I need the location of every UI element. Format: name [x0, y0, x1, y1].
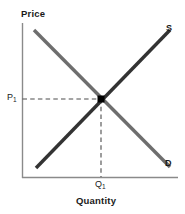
equilibrium-point-marker — [98, 96, 105, 103]
quantity-tick-label: Q1 — [95, 180, 106, 189]
x-axis-title: Quantity — [76, 196, 116, 206]
quantity-tick-base: Q — [95, 179, 102, 189]
plot-area — [0, 0, 185, 214]
supply-demand-chart: Price Quantity S D P1 Q1 — [0, 0, 185, 214]
price-tick-label: P1 — [7, 93, 17, 102]
quantity-tick-subscript: 1 — [102, 183, 106, 190]
supply-curve-label: S — [166, 24, 172, 33]
y-axis-title: Price — [21, 9, 45, 19]
price-tick-subscript: 1 — [13, 96, 17, 103]
demand-curve-label: D — [165, 159, 172, 168]
